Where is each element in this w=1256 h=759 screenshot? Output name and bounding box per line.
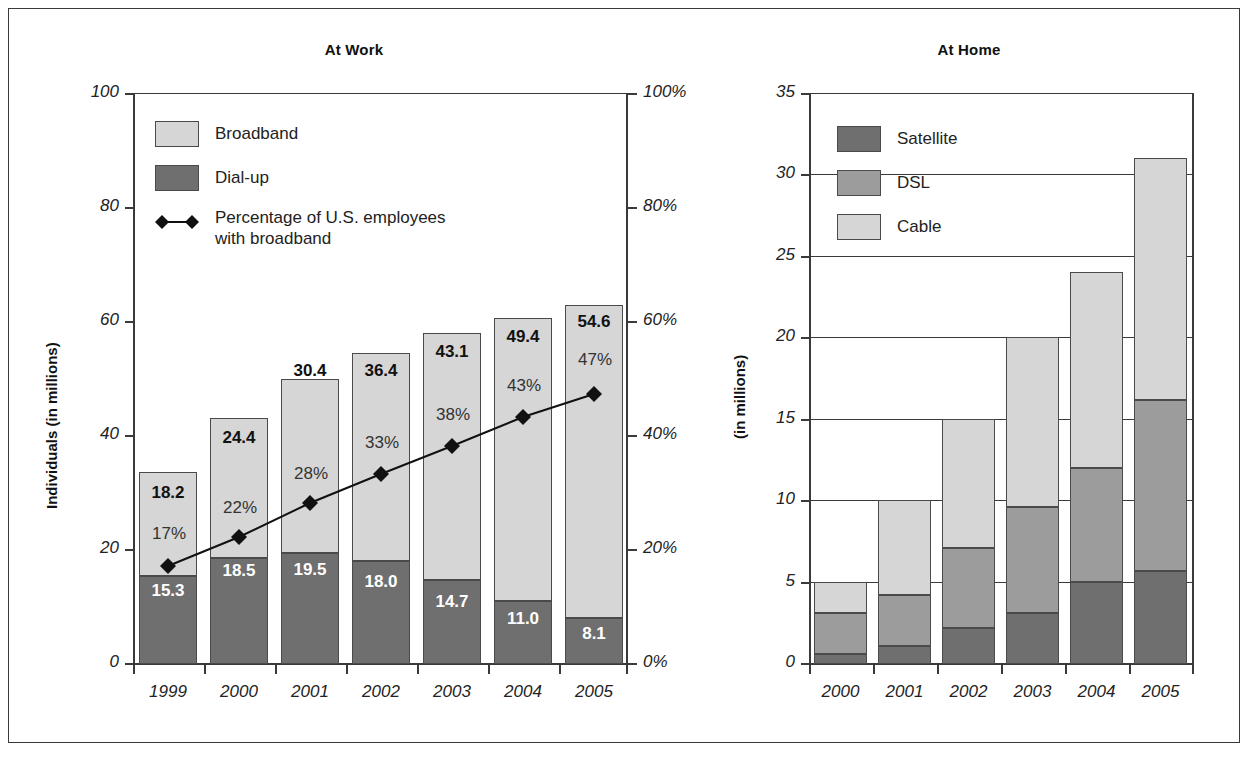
x-tick-at-work-0	[133, 665, 135, 674]
x-ticklabel-at-home-2000: 2000	[814, 682, 867, 702]
y-tick-home-35	[801, 93, 810, 95]
x-tick-at-work-7	[626, 665, 628, 674]
legend-item-satellite[interactable]: Satellite	[837, 126, 957, 152]
legend-label-percentage: Percentage of U.S. employeeswith broadba…	[215, 207, 446, 250]
x-tick-at-home-4	[1065, 665, 1067, 674]
legend-label-dialup: Dial-up	[215, 167, 269, 188]
x-tick-at-work-3	[346, 665, 348, 674]
x-tick-at-home-0	[809, 665, 811, 674]
x-tick-at-home-2	[937, 665, 939, 674]
x-ticklabel-at-home-2004: 2004	[1070, 682, 1123, 702]
legend-item-dialup[interactable]: Dial-up	[155, 165, 269, 191]
legend-swatch-dsl-icon	[837, 170, 881, 196]
percentage-line-series	[9, 9, 699, 759]
chart-title-at-home: At Home	[699, 41, 1239, 58]
figure-frame: At Work Individuals (in millions) 100 80…	[8, 8, 1240, 743]
x-tick-at-home-5	[1129, 665, 1131, 674]
bar-segment-cable	[1070, 272, 1123, 468]
y-tick-home-5	[801, 582, 810, 584]
bar-at-home-2002[interactable]	[942, 419, 995, 664]
legend-swatch-satellite-icon	[837, 126, 881, 152]
x-tick-at-home-3	[1001, 665, 1003, 674]
bar-segment-dsl	[942, 548, 995, 628]
y-tick-home-10	[801, 500, 810, 502]
y-axis-title-at-home: (in millions)	[731, 355, 748, 439]
legend-item-percentage[interactable]: Percentage of U.S. employeeswith broadba…	[155, 209, 446, 250]
legend-item-cable[interactable]: Cable	[837, 214, 941, 240]
x-tick-at-work-4	[417, 665, 419, 674]
legend-item-broadband[interactable]: Broadband	[155, 121, 298, 147]
x-tick-at-work-2	[275, 665, 277, 674]
x-ticklabel-at-home-2001: 2001	[878, 682, 931, 702]
x-ticklabel-at-work-2005: 2005	[565, 682, 623, 702]
chart-panel-at-home: At Home (in millions) 35 30 25 20 15 10 …	[699, 9, 1239, 742]
legend-label-satellite: Satellite	[897, 128, 957, 149]
legend-label-percentage-line1: Percentage of U.S. employees	[215, 208, 446, 227]
y-ticklabel-home-15: 15	[753, 408, 795, 428]
x-tick-at-work-6	[559, 665, 561, 674]
bar-at-home-2005[interactable]	[1134, 158, 1187, 664]
x-ticklabel-at-home-2002: 2002	[942, 682, 995, 702]
bar-at-home-2001[interactable]	[878, 500, 931, 664]
bar-at-home-2004[interactable]	[1070, 272, 1123, 664]
legend-line-marker-icon	[155, 209, 199, 235]
bar-segment-cable	[814, 582, 867, 613]
bar-segment-dsl	[1006, 507, 1059, 613]
bar-segment-cable	[942, 419, 995, 548]
y-ticklabel-home-0: 0	[753, 652, 795, 672]
x-tick-at-work-5	[488, 665, 490, 674]
legend-label-cable: Cable	[897, 216, 941, 237]
bar-segment-satellite	[878, 646, 931, 664]
y-ticklabel-home-30: 30	[753, 163, 795, 183]
x-ticklabel-at-work-2000: 2000	[210, 682, 268, 702]
bar-segment-satellite	[1070, 582, 1123, 664]
legend-swatch-broadband-icon	[155, 121, 199, 147]
x-tick-at-home-1	[873, 665, 875, 674]
bar-segment-cable	[878, 500, 931, 595]
left-axis-line-at-home	[809, 93, 811, 665]
y-tick-home-15	[801, 419, 810, 421]
x-ticklabel-at-home-2003: 2003	[1006, 682, 1059, 702]
bar-segment-dsl	[814, 613, 867, 654]
bar-segment-dsl	[1134, 400, 1187, 571]
bar-segment-cable	[1006, 337, 1059, 507]
x-ticklabel-at-work-2001: 2001	[281, 682, 339, 702]
chart-panel-at-work: At Work Individuals (in millions) 100 80…	[9, 9, 699, 742]
y-ticklabel-home-20: 20	[753, 326, 795, 346]
y-tick-home-30	[801, 174, 810, 176]
x-ticklabel-at-work-2003: 2003	[423, 682, 481, 702]
y-ticklabel-home-25: 25	[753, 245, 795, 265]
y-tick-home-20	[801, 337, 810, 339]
bar-segment-satellite	[814, 654, 867, 664]
legend-label-broadband: Broadband	[215, 123, 298, 144]
legend-item-dsl[interactable]: DSL	[837, 170, 930, 196]
legend-swatch-dialup-icon	[155, 165, 199, 191]
legend-swatch-cable-icon	[837, 214, 881, 240]
bar-segment-dsl	[1070, 468, 1123, 582]
x-ticklabel-at-home-2005: 2005	[1134, 682, 1187, 702]
bar-at-home-2003[interactable]	[1006, 337, 1059, 664]
y-ticklabel-home-5: 5	[753, 571, 795, 591]
bar-at-home-2000[interactable]	[814, 582, 867, 664]
y-tick-home-25	[801, 256, 810, 258]
legend-label-percentage-line2: with broadband	[215, 229, 331, 248]
y-ticklabel-home-10: 10	[753, 489, 795, 509]
x-ticklabel-at-work-1999: 1999	[139, 682, 197, 702]
bar-segment-cable	[1134, 158, 1187, 400]
x-tick-at-home-6	[1192, 665, 1194, 674]
top-axis-line-at-home	[809, 93, 1194, 94]
y-ticklabel-home-35: 35	[753, 82, 795, 102]
x-tick-at-work-1	[204, 665, 206, 674]
bar-segment-satellite	[1006, 613, 1059, 664]
right-axis-line-at-home	[1192, 93, 1194, 665]
bar-segment-dsl	[878, 595, 931, 646]
bar-segment-satellite	[942, 628, 995, 664]
x-ticklabel-at-work-2004: 2004	[494, 682, 552, 702]
x-ticklabel-at-work-2002: 2002	[352, 682, 410, 702]
legend-label-dsl: DSL	[897, 172, 930, 193]
bar-segment-satellite	[1134, 571, 1187, 664]
